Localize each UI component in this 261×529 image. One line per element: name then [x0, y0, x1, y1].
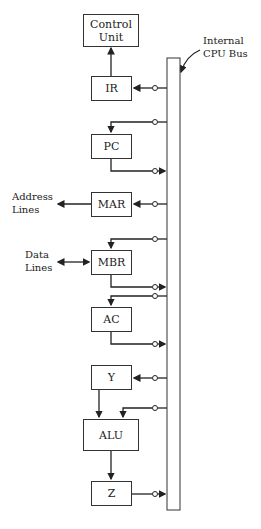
y-label: Y: [108, 371, 115, 384]
ac-register: AC: [91, 307, 132, 332]
data-lines-label: Data Lines: [25, 248, 52, 274]
address-label-line1: Address: [12, 190, 53, 203]
y-register: Y: [91, 365, 132, 390]
internal-cpu-bus: [167, 58, 180, 510]
alu-box: ALU: [83, 419, 139, 451]
mbr-label: MBR: [98, 256, 126, 269]
ir-label: IR: [105, 82, 118, 95]
z-register: Z: [91, 481, 132, 506]
address-label-line2: Lines: [12, 203, 53, 216]
ir-register: IR: [91, 76, 132, 101]
address-lines-label: Address Lines: [12, 190, 53, 216]
pc-label: PC: [104, 140, 120, 153]
ac-label: AC: [103, 313, 119, 326]
mar-label: MAR: [98, 198, 126, 211]
mbr-register: MBR: [91, 250, 132, 275]
z-label: Z: [108, 487, 116, 500]
control-unit-box: Control Unit: [83, 14, 139, 47]
bus-label: Internal CPU Bus: [203, 34, 248, 60]
bus-label-line1: Internal: [203, 34, 248, 47]
alu-label: ALU: [99, 429, 123, 442]
control-unit-label-2: Unit: [99, 31, 123, 44]
data-label-line1: Data: [25, 248, 52, 261]
control-unit-label-1: Control: [90, 18, 132, 31]
pc-register: PC: [91, 134, 132, 159]
data-label-line2: Lines: [25, 261, 52, 274]
mar-register: MAR: [91, 192, 132, 217]
bus-label-line2: CPU Bus: [203, 47, 248, 60]
